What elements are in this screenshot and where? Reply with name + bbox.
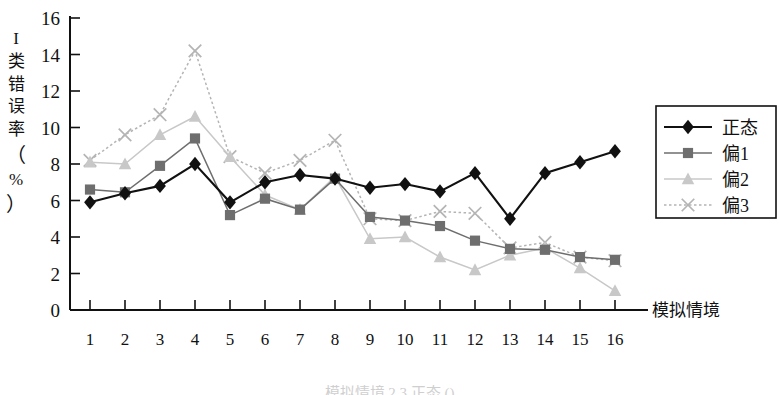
- data-point-square: [575, 252, 585, 262]
- x-axis-tick-label: 2: [121, 330, 130, 349]
- legend-label: 偏2: [722, 170, 749, 190]
- y-axis-tick-label: 12: [41, 81, 60, 102]
- data-point-triangle: [609, 284, 622, 296]
- data-point-diamond: [399, 177, 411, 191]
- data-point-diamond: [84, 195, 96, 209]
- x-axis-tick-label: 1: [86, 330, 95, 349]
- x-axis-tick-label: 14: [537, 330, 555, 349]
- y-axis-tick-label: 8: [51, 154, 61, 175]
- data-point-square: [225, 210, 235, 220]
- series-group: [84, 45, 622, 297]
- series-正态: [84, 144, 621, 226]
- data-point-square: [295, 205, 305, 215]
- legend-label: 偏1: [722, 144, 749, 164]
- y-axis-tick-label: 14: [41, 45, 61, 66]
- y-axis-tick-label: 6: [51, 191, 61, 212]
- data-point-x: [119, 129, 132, 142]
- data-point-square: [470, 236, 480, 246]
- x-axis-tick-label: 6: [261, 330, 270, 349]
- chart-legend: 正态偏1偏2偏3: [656, 106, 776, 218]
- x-axis-tick-label: 13: [502, 330, 519, 349]
- legend-label: 正态: [722, 118, 758, 138]
- series-line: [90, 117, 615, 291]
- data-point-diamond: [154, 179, 166, 193]
- series-偏3: [84, 45, 622, 267]
- data-point-square: [400, 215, 410, 225]
- data-point-diamond: [574, 155, 586, 169]
- y-axis-tick-label: 0: [51, 300, 61, 321]
- data-point-square: [365, 212, 375, 222]
- x-axis-tick-label: 9: [366, 330, 375, 349]
- x-axis-title: 模拟情境: [652, 301, 720, 320]
- x-axis-tick-label: 11: [432, 330, 448, 349]
- data-point-square: [683, 148, 693, 158]
- legend-box: [656, 106, 776, 218]
- data-point-square: [85, 184, 95, 194]
- data-point-square: [610, 255, 620, 265]
- x-axis-tick-label: 3: [156, 330, 165, 349]
- x-axis-tick-label: 4: [191, 330, 200, 349]
- data-point-triangle: [469, 263, 482, 275]
- series-line: [90, 138, 615, 259]
- y-axis-tick-label: 16: [41, 8, 60, 29]
- y-axis-tick-label: 2: [51, 264, 61, 285]
- data-point-diamond: [294, 168, 306, 182]
- x-axis-tick-label: 8: [331, 330, 340, 349]
- data-point-x: [189, 45, 202, 58]
- figure-caption: 模拟情境 2 3 正态 (): [0, 381, 779, 395]
- x-axis-tick-label: 16: [607, 330, 624, 349]
- data-point-triangle: [154, 128, 167, 140]
- y-axis-tick-label: 10: [41, 118, 60, 139]
- data-point-square: [155, 161, 165, 171]
- series-偏1: [85, 133, 620, 265]
- x-axis-tick-label: 7: [296, 330, 305, 349]
- data-point-square: [190, 133, 200, 143]
- data-point-diamond: [434, 184, 446, 198]
- y-axis-tick-label: 4: [51, 227, 61, 248]
- x-axis-tick-label: 15: [572, 330, 589, 349]
- series-line: [90, 51, 615, 261]
- data-point-square: [260, 194, 270, 204]
- data-point-square: [505, 244, 515, 254]
- data-point-square: [540, 245, 550, 255]
- y-axis-tick-group: 0246810121416: [41, 8, 80, 321]
- data-point-triangle: [574, 261, 587, 273]
- data-point-x: [329, 134, 342, 147]
- data-point-diamond: [609, 144, 621, 158]
- data-point-square: [435, 221, 445, 231]
- data-point-triangle: [434, 250, 447, 262]
- series-偏2: [84, 110, 622, 296]
- data-point-diamond: [364, 181, 376, 195]
- x-axis-tick-group: 12345678910111213141516: [86, 300, 624, 349]
- data-point-triangle: [189, 110, 202, 122]
- x-axis-tick-label: 5: [226, 330, 235, 349]
- data-point-x: [294, 154, 307, 167]
- data-point-triangle: [399, 230, 412, 242]
- x-axis-tick-label: 10: [397, 330, 414, 349]
- legend-label: 偏3: [722, 196, 749, 216]
- x-axis-tick-label: 12: [467, 330, 484, 349]
- data-point-x: [154, 108, 167, 121]
